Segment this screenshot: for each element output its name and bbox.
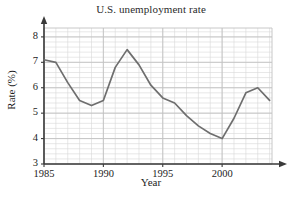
y-axis-title: Rate (%) <box>5 55 17 125</box>
x-axis-title: Year <box>0 176 302 188</box>
y-tick-label: 7 <box>22 55 38 66</box>
data-series-line <box>44 50 270 139</box>
chart-page: U.S. unemployment rate 345678 1985199019… <box>0 0 302 200</box>
y-tick-label: 4 <box>22 132 38 143</box>
minor-gridlines <box>44 28 272 164</box>
y-tick-label: 6 <box>22 81 38 92</box>
y-tick-label: 5 <box>22 106 38 117</box>
y-tick-label: 3 <box>22 157 38 168</box>
y-tick-label: 8 <box>22 30 38 41</box>
